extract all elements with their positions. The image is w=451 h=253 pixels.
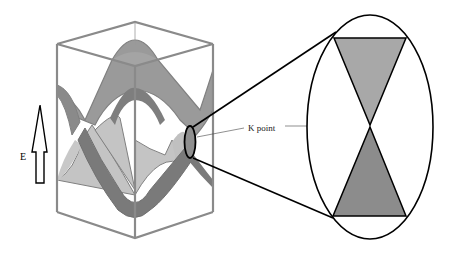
k-point-marker: [185, 126, 196, 158]
energy-axis-label: E: [20, 151, 26, 162]
k-point-leader-left: [197, 128, 244, 137]
band-structure-diagram: E K point: [0, 0, 451, 253]
k-point-label: K point: [248, 123, 276, 133]
energy-arrow-icon: [32, 105, 47, 183]
dirac-cone-magnified: [307, 15, 433, 239]
